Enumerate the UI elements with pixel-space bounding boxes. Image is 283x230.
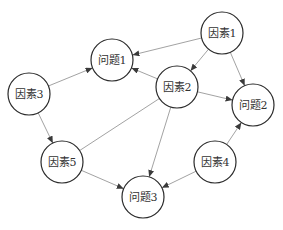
edge-f2-p1	[132, 68, 158, 79]
node-label: 因素4	[201, 156, 230, 169]
node-p1: 问题1	[91, 39, 133, 81]
edge-f2-p3	[149, 107, 171, 176]
edge-f5-p3	[81, 170, 123, 188]
node-f2: 因素2	[156, 66, 198, 108]
edge-f3-f5	[38, 113, 52, 143]
node-label: 因素3	[15, 88, 44, 101]
node-f3: 因素3	[8, 73, 50, 115]
node-label: 问题1	[98, 54, 127, 67]
node-f4: 因素4	[194, 141, 236, 183]
node-p3: 问题3	[122, 176, 164, 218]
node-f5: 因素5	[41, 141, 83, 183]
node-f1: 因素1	[201, 12, 243, 54]
node-label: 因素1	[208, 27, 237, 40]
edge-f4-p2	[227, 123, 242, 145]
node-label: 问题2	[239, 99, 268, 112]
graph-canvas: 因素1问题1因素2因素3问题2因素5因素4问题3	[0, 0, 283, 230]
nodes-layer: 因素1问题1因素2因素3问题2因素5因素4问题3	[8, 12, 274, 218]
edge-f2-p2	[197, 92, 232, 100]
edge-f1-f2	[191, 49, 209, 70]
node-label: 因素2	[163, 81, 192, 94]
edge-f4-p3	[162, 171, 196, 187]
edge-f3-p1	[48, 68, 92, 86]
edge-f2-f5	[80, 99, 159, 151]
edge-f1-p1	[133, 38, 202, 55]
node-label: 问题3	[129, 191, 158, 204]
node-p2: 问题2	[232, 84, 274, 126]
node-label: 因素5	[48, 156, 77, 169]
edge-f1-p2	[230, 52, 244, 85]
factor-problem-diagram: 因素1问题1因素2因素3问题2因素5因素4问题3	[0, 0, 283, 230]
